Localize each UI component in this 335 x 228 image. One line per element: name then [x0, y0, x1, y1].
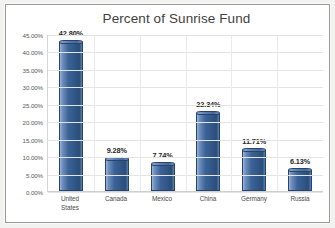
- x-axis-category-label: UnitedStates: [47, 194, 93, 212]
- category-separator-line: [94, 35, 95, 191]
- x-axis-category-label: Russia: [277, 194, 323, 212]
- plot-wrapper: 45.00%40.00%35.00%30.00%25.00%20.00%15.0…: [14, 35, 323, 216]
- category-separator-line: [231, 35, 232, 191]
- x-axis-category-line: Canada: [93, 194, 139, 203]
- x-axis-category-line: States: [47, 203, 93, 212]
- y-axis-tick-label: 35.00%: [23, 66, 43, 73]
- bar-slot: 7.74%: [140, 35, 186, 191]
- y-axis-tick-label: 5.00%: [26, 171, 43, 178]
- x-axis-category-label: Germany: [231, 194, 277, 212]
- y-axis-tick-label: 0.00%: [26, 189, 43, 196]
- chart-frame: Percent of Sunrise Fund 45.00%40.00%35.0…: [5, 4, 330, 223]
- bar-slot: 9.28%: [94, 35, 140, 191]
- plot-area: 42.80%9.28%7.74%22.34%11.71%6.13%: [47, 35, 323, 192]
- category-separator-line: [186, 35, 187, 191]
- x-axis-category-label: Mexico: [139, 194, 185, 212]
- bar-slot: 22.34%: [185, 35, 231, 191]
- category-separator-line: [140, 35, 141, 191]
- x-axis-category-label: China: [185, 194, 231, 212]
- gridline: [48, 192, 323, 193]
- bar[interactable]: 6.13%: [288, 170, 312, 191]
- y-axis-tick-label: 20.00%: [23, 119, 43, 126]
- x-axis-category-label: Canada: [93, 194, 139, 212]
- bar-value-label: 42.80%: [59, 29, 83, 38]
- x-axis-category-line: Mexico: [139, 194, 185, 203]
- chart-title: Percent of Sunrise Fund: [6, 11, 329, 26]
- x-axis-category-line: United: [47, 194, 93, 203]
- bar-value-label: 9.28%: [107, 146, 127, 155]
- category-separator-line: [277, 35, 278, 191]
- x-axis-category-line: Russia: [277, 194, 323, 203]
- bar-slot: 6.13%: [277, 35, 323, 191]
- bar-value-label: 11.71%: [242, 137, 266, 146]
- bar-slot: 42.80%: [48, 35, 94, 191]
- bar[interactable]: 42.80%: [59, 42, 83, 191]
- bar[interactable]: 22.34%: [196, 113, 220, 191]
- x-axis: UnitedStatesCanadaMexicoChinaGermanyRuss…: [47, 194, 323, 212]
- y-axis-tick-label: 15.00%: [23, 136, 43, 143]
- y-axis-tick-label: 30.00%: [23, 84, 43, 91]
- x-axis-category-line: Germany: [231, 194, 277, 203]
- chart-screenshot: Percent of Sunrise Fund 45.00%40.00%35.0…: [0, 0, 335, 228]
- bar-slot: 11.71%: [231, 35, 277, 191]
- y-axis-tick-label: 25.00%: [23, 101, 43, 108]
- bar-value-label: 7.74%: [152, 151, 172, 160]
- y-axis: 45.00%40.00%35.00%30.00%25.00%20.00%15.0…: [14, 35, 45, 192]
- y-axis-tick-label: 10.00%: [23, 154, 43, 161]
- y-axis-tick-label: 45.00%: [23, 32, 43, 39]
- x-axis-category-line: China: [185, 194, 231, 203]
- bar[interactable]: 7.74%: [151, 164, 175, 191]
- y-axis-tick-label: 40.00%: [23, 49, 43, 56]
